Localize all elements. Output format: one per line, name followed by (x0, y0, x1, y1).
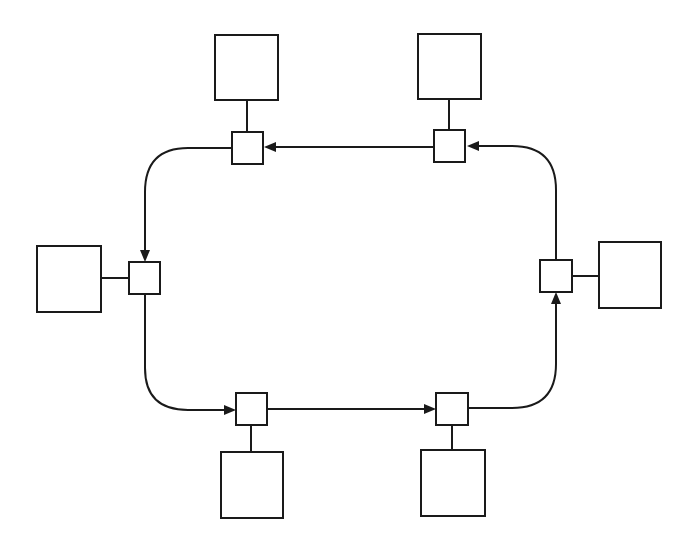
ring-node-bottom-left (236, 393, 267, 425)
ring-segment-top-left-corner (145, 148, 232, 254)
arrow-right-icon (424, 404, 436, 414)
arrow-up-icon (551, 292, 561, 304)
ring-segment-top-right-corner (475, 146, 556, 260)
ring-node-bottom-right (436, 393, 468, 425)
arrow-right-icon (224, 405, 236, 415)
ring-node-top-left (232, 132, 263, 164)
station-top-right (418, 34, 481, 99)
station-bottom-right (421, 450, 485, 516)
station-bottom-left (221, 452, 283, 518)
arrow-left-icon (467, 141, 479, 151)
arrow-down-icon (140, 250, 150, 262)
ring-node-top-right (434, 130, 465, 162)
ring-network-diagram (0, 0, 697, 552)
ring-segment-bottom-left-corner (145, 294, 228, 410)
arrow-left-icon (264, 142, 276, 152)
ring-node-left (129, 262, 160, 294)
ring-segment-bottom-right-corner (468, 300, 556, 408)
station-right (599, 242, 661, 308)
ring-node-right (540, 260, 572, 292)
station-top-left (215, 35, 278, 100)
station-left (37, 246, 101, 312)
